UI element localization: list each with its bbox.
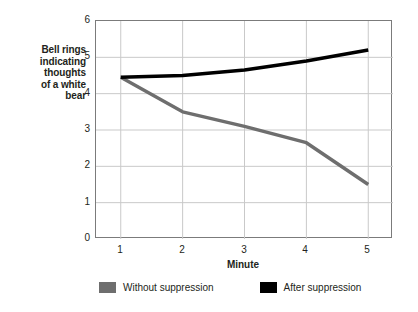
y-tick-label-1: 1 xyxy=(68,197,90,207)
y-tick-label-4: 4 xyxy=(68,88,90,98)
legend-label: After suppression xyxy=(284,282,362,293)
x-tick-label-3: 3 xyxy=(234,245,254,255)
x-tick-label-4: 4 xyxy=(295,245,315,255)
chart-container: Bell rings indicating thoughts of a whit… xyxy=(0,0,418,312)
legend-swatch-icon xyxy=(260,282,277,293)
plot-svg xyxy=(96,21,393,239)
y-tick-label-0: 0 xyxy=(68,233,90,243)
x-tick-label-2: 2 xyxy=(172,245,192,255)
chart-legend: Without suppression After suppression xyxy=(99,282,361,293)
legend-item-after-suppression: After suppression xyxy=(260,282,362,293)
x-axis-title: Minute xyxy=(193,259,293,270)
y-tick-label-6: 6 xyxy=(68,15,90,25)
x-tick-label-5: 5 xyxy=(357,245,377,255)
y-axis-title-line: thoughts xyxy=(6,67,86,79)
legend-item-without-suppression: Without suppression xyxy=(99,282,214,293)
legend-swatch-icon xyxy=(99,282,116,293)
legend-label: Without suppression xyxy=(123,282,214,293)
plot-area xyxy=(95,20,392,238)
y-tick-label-5: 5 xyxy=(68,51,90,61)
x-tick-label-1: 1 xyxy=(110,245,130,255)
y-tick-label-2: 2 xyxy=(68,160,90,170)
y-tick-label-3: 3 xyxy=(68,124,90,134)
